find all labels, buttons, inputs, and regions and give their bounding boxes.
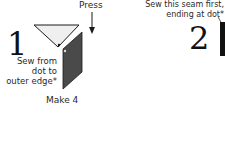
seam-dot-icon [58, 44, 60, 46]
step-number-2: 2 [189, 22, 209, 54]
sew-instruction-line: ending at dot* [120, 10, 224, 20]
parallelogram-piece [63, 32, 82, 89]
step2-piece-edge [220, 22, 225, 56]
sew-instruction-1: Sew from dot to outer edge* [0, 56, 57, 86]
press-label: Press [79, 0, 103, 10]
sew-instruction-line: Sew from [0, 56, 57, 66]
sew-instruction-line: dot to [0, 66, 57, 76]
make-quantity-label: Make 4 [46, 95, 78, 105]
press-arrowhead-icon [89, 27, 95, 34]
sew-instruction-line: Sew this seam first, [120, 0, 224, 10]
sew-instruction-2: Sew this seam first, ending at dot* [120, 0, 224, 19]
sew-instruction-line: outer edge* [0, 76, 57, 86]
seam-dot-icon [64, 50, 66, 52]
